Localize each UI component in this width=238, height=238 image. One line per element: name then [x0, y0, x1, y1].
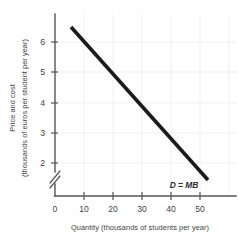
y-tick-label-6: 6 [40, 37, 45, 47]
chart-canvas: 6 5 4 3 2 0 10 20 30 40 50 D = MB Price … [0, 0, 238, 238]
x-axis-title: Quantity (thousands of students per year… [71, 223, 209, 232]
x-tick-label-0: 0 [53, 204, 58, 214]
x-tick-label-30: 30 [137, 204, 147, 214]
y-axis-title: Price and cost (thousands of euros per s… [8, 39, 29, 177]
x-tick-labels: 0 10 20 30 40 50 [53, 204, 205, 214]
y-tick-labels: 6 5 4 3 2 [40, 37, 45, 168]
x-tick-label-10: 10 [79, 204, 89, 214]
y-tick-label-2: 2 [40, 158, 45, 168]
demand-curve-figure: 6 5 4 3 2 0 10 20 30 40 50 D = MB Price … [0, 0, 238, 238]
x-tick-label-50: 50 [195, 204, 205, 214]
x-tick-label-20: 20 [108, 204, 118, 214]
y-axis-title-line2: (thousands of euros per student per year… [20, 39, 29, 177]
y-tick-label-5: 5 [40, 67, 45, 77]
y-tick-label-3: 3 [40, 128, 45, 138]
y-axis-title-line1: Price and cost [8, 84, 17, 132]
curve-label-demand: D = MB [170, 180, 199, 190]
demand-curve-line [71, 27, 208, 180]
y-tick-label-4: 4 [40, 98, 45, 108]
x-tick-label-40: 40 [166, 204, 176, 214]
